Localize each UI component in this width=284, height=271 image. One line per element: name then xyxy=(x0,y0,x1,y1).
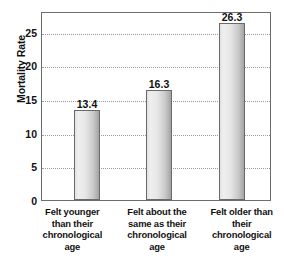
x-category-line: Felt younger xyxy=(30,206,115,218)
x-category-line: same as their xyxy=(115,218,200,230)
x-category-line: Felt older than xyxy=(199,206,284,218)
bar-value-label: 26.3 xyxy=(209,12,255,23)
bar xyxy=(74,110,100,200)
bar xyxy=(219,23,245,200)
bar-value-label: 16.3 xyxy=(136,79,182,90)
y-tick-label: 0 xyxy=(13,196,37,206)
x-category-line: chronological xyxy=(199,229,284,241)
bar xyxy=(146,90,172,200)
x-category-line: their xyxy=(199,218,284,230)
x-category-label: Felt about the same as their chronologic… xyxy=(115,206,200,268)
x-category-line: chronological xyxy=(115,229,200,241)
y-tick-label: 10 xyxy=(13,129,37,139)
x-category-line: age xyxy=(115,241,200,253)
bar-value-label: 13.4 xyxy=(64,99,110,110)
x-category-line: than their xyxy=(30,218,115,230)
x-category-label: Felt younger than their chronological ag… xyxy=(30,206,115,268)
x-axis-category-labels: Felt younger than their chronological ag… xyxy=(30,206,284,268)
bar-chart-figure: Mortality Rate 25 20 15 10 5 0 13.4 16.3… xyxy=(0,0,284,271)
y-tick-label: 25 xyxy=(13,28,37,38)
x-category-label: Felt older than their chronological age xyxy=(199,206,284,268)
x-category-line: age xyxy=(30,241,115,253)
plot-area: 13.4 16.3 26.3 xyxy=(41,12,271,201)
x-category-line: age xyxy=(199,241,284,253)
y-tick-label: 20 xyxy=(13,61,37,71)
x-category-line: Felt about the xyxy=(115,206,200,218)
y-tick-label: 5 xyxy=(13,162,37,172)
y-tick-label: 15 xyxy=(13,95,37,105)
x-category-line: chronological xyxy=(30,229,115,241)
